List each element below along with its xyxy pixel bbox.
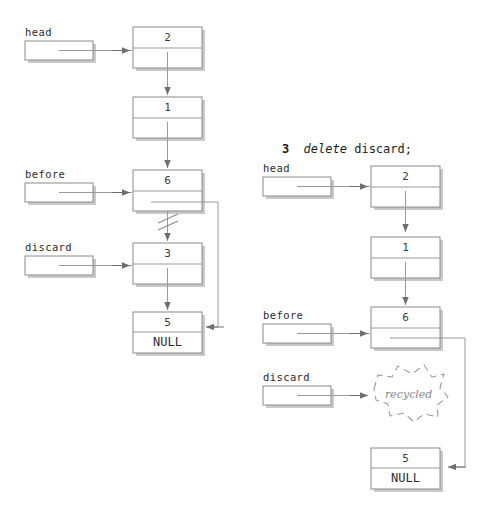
left-node-5-next-null: NULL bbox=[133, 335, 202, 349]
right-pointer-box-before bbox=[263, 324, 370, 346]
left-pointer-box-before bbox=[25, 183, 132, 205]
code-statement: discard; bbox=[354, 142, 412, 156]
left-pointer-box-discard bbox=[25, 256, 132, 278]
right-node-5-value: 5 bbox=[371, 452, 440, 465]
right-label-head: head bbox=[263, 162, 290, 174]
right-pointer-box-head bbox=[263, 177, 370, 199]
left-label-head: head bbox=[25, 26, 52, 38]
figure-canvas: 3 delete discard; head before discard 2 … bbox=[0, 0, 485, 510]
left-node-6-value: 6 bbox=[133, 174, 202, 187]
right-pointer-box-discard bbox=[263, 386, 368, 408]
recycled-label: recycled bbox=[385, 388, 432, 401]
left-node-5-value: 5 bbox=[133, 316, 202, 329]
right-label-before: before bbox=[263, 309, 303, 321]
right-label-discard: discard bbox=[263, 371, 310, 383]
right-node-2-value: 2 bbox=[371, 170, 440, 183]
left-node-2-value: 2 bbox=[133, 31, 202, 44]
right-node-1-value: 1 bbox=[371, 241, 440, 254]
left-label-before: before bbox=[25, 168, 65, 180]
code-keyword-delete: delete bbox=[304, 142, 347, 156]
left-node-1-value: 1 bbox=[133, 101, 202, 114]
left-label-discard: discard bbox=[25, 241, 72, 253]
right-node-6-value: 6 bbox=[371, 311, 440, 324]
right-node-5-next-null: NULL bbox=[371, 471, 440, 485]
left-node-3-value: 3 bbox=[133, 247, 202, 260]
left-pointer-box-head bbox=[25, 41, 132, 63]
diagram-vector-art bbox=[0, 0, 485, 510]
